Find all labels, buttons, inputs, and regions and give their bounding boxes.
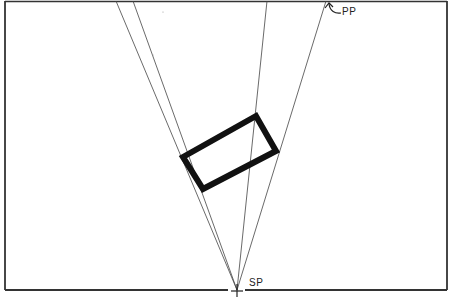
station-point-marker bbox=[231, 284, 243, 297]
pp-arrow-icon bbox=[325, 3, 341, 13]
sight-line-3 bbox=[237, 1, 267, 290]
sight-line-2 bbox=[133, 1, 237, 290]
object-rectangle bbox=[183, 116, 276, 189]
station-point-label: SP bbox=[249, 277, 263, 288]
sight-line-4 bbox=[237, 1, 326, 290]
speck bbox=[152, 54, 153, 55]
picture-plane-label: PP bbox=[342, 6, 356, 17]
sight-lines bbox=[116, 1, 326, 290]
perspective-plan-diagram: PP SP bbox=[0, 0, 455, 297]
frame bbox=[5, 1, 447, 290]
speck bbox=[162, 11, 163, 12]
sight-line-1 bbox=[116, 1, 237, 290]
